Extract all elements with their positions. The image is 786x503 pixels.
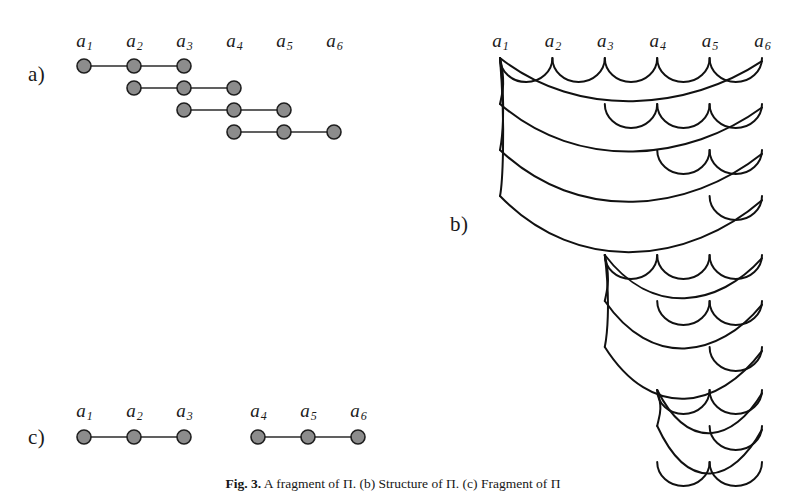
chain-0 (77, 430, 191, 444)
chain-1 (251, 430, 365, 444)
node-a3 (177, 430, 191, 444)
panel-c-graph (0, 0, 786, 503)
caption-text: A fragment of Π. (b) Structure of Π. (c)… (264, 476, 561, 491)
node-a2 (127, 430, 141, 444)
figure-canvas: a) b) c) a1a2a3a4a5a6 a1a2a3a4a5a6 a1a2a… (0, 0, 786, 503)
node-a5 (301, 430, 315, 444)
caption-prefix: Fig. 3. (226, 476, 262, 491)
node-a4 (251, 430, 265, 444)
node-a6 (351, 430, 365, 444)
node-a1 (77, 430, 91, 444)
figure-caption: Fig. 3. A fragment of Π. (b) Structure o… (0, 476, 786, 503)
